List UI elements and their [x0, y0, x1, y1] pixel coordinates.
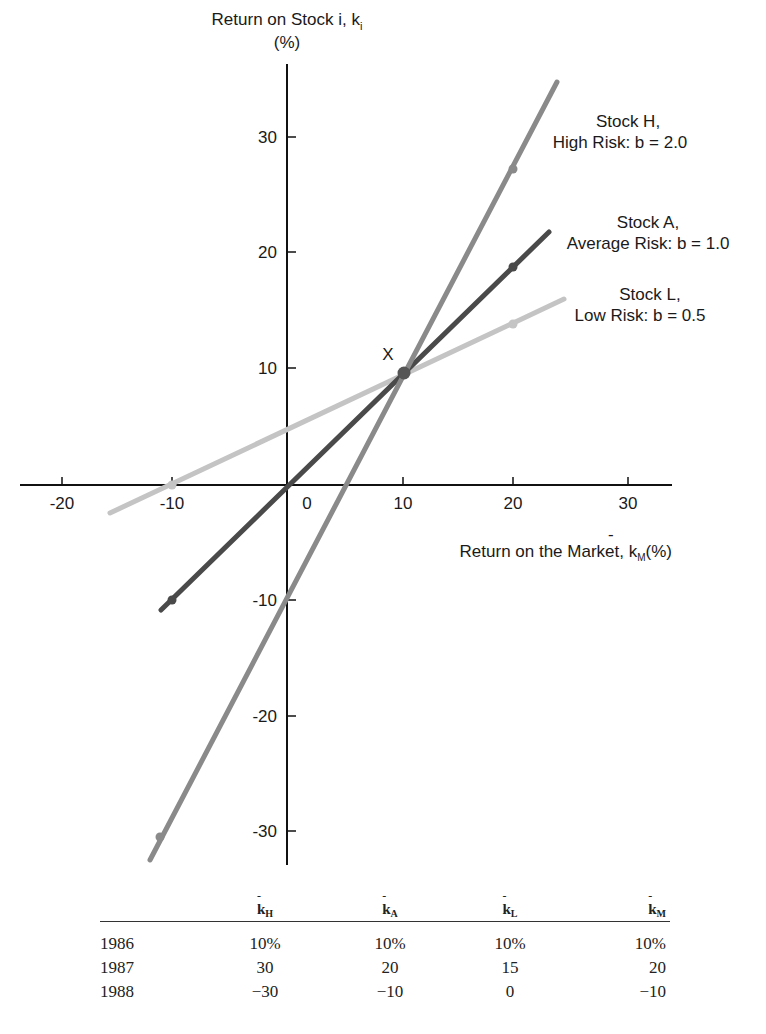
x-tick-label: 30: [619, 494, 638, 513]
year-cell: 1986: [100, 922, 205, 957]
stock-h-point: [509, 165, 518, 174]
x-axis-k-bar: -: [608, 525, 614, 544]
stock-h-point: [156, 833, 165, 842]
kL-cell: 10%: [455, 922, 565, 957]
returns-table: kH kA kL kM 1986 10% 10% 10% 10% 1987 30…: [100, 895, 670, 1004]
y-axis-unit: (%): [274, 33, 300, 52]
stock-h-label: Stock H,: [596, 112, 660, 131]
year-cell: 1988: [100, 980, 205, 1004]
stock-a-risk-label: Average Risk: b = 1.0: [567, 234, 730, 253]
header-kH: kH: [205, 895, 325, 922]
kL-cell: 0: [455, 980, 565, 1004]
x-axis-title: Return on the Market, kM(%): [460, 542, 672, 563]
table-row: 1987 30 20 15 20: [100, 956, 670, 980]
y-tick-label: 30: [258, 128, 277, 147]
y-tick-label: 20: [258, 243, 277, 262]
stock-a-label: Stock A,: [617, 213, 679, 232]
stock-l-point: [509, 320, 518, 329]
characteristic-lines-chart: -20 -10 0 10 20 30 30 20 10 -10 -20 -30 …: [0, 0, 766, 890]
x-tick-label: 20: [504, 494, 523, 513]
intersection-label: X: [382, 345, 393, 364]
x-tick-label-zero: 0: [302, 494, 311, 513]
stock-a-point: [509, 263, 518, 272]
stock-l-label: Stock L,: [619, 285, 680, 304]
y-axis-title: Return on Stock i, ki: [212, 10, 363, 32]
x-tick-label: -10: [160, 494, 185, 513]
y-tick-label: -10: [252, 591, 277, 610]
stock-a-point: [168, 596, 177, 605]
stock-l-point: [168, 481, 177, 490]
kH-cell: 10%: [205, 922, 325, 957]
x-tick-label: -20: [50, 494, 75, 513]
header-kA: kA: [325, 895, 455, 922]
y-tick-label: -30: [252, 822, 277, 841]
header-kL: kL: [455, 895, 565, 922]
kM-cell: −10: [565, 980, 670, 1004]
kA-cell: 20: [325, 956, 455, 980]
kL-cell: 15: [455, 956, 565, 980]
table-row: 1988 −30 −10 0 −10: [100, 980, 670, 1004]
stock-l-risk-label: Low Risk: b = 0.5: [575, 306, 706, 325]
y-tick-label: 10: [258, 359, 277, 378]
stock-h-risk-label: High Risk: b = 2.0: [553, 133, 688, 152]
x-tick-label: 10: [394, 494, 413, 513]
kM-cell: 10%: [565, 922, 670, 957]
table-header-row: kH kA kL kM: [100, 895, 670, 922]
intersection-point: [398, 367, 411, 380]
y-tick-label: -20: [252, 707, 277, 726]
kA-cell: −10: [325, 980, 455, 1004]
kH-cell: 30: [205, 956, 325, 980]
kA-cell: 10%: [325, 922, 455, 957]
kM-cell: 20: [565, 956, 670, 980]
table-row: 1986 10% 10% 10% 10%: [100, 922, 670, 957]
kH-cell: −30: [205, 980, 325, 1004]
header-kM: kM: [565, 895, 670, 922]
year-cell: 1987: [100, 956, 205, 980]
stock-h-line: [150, 82, 557, 860]
stock-l-line: [110, 299, 564, 513]
